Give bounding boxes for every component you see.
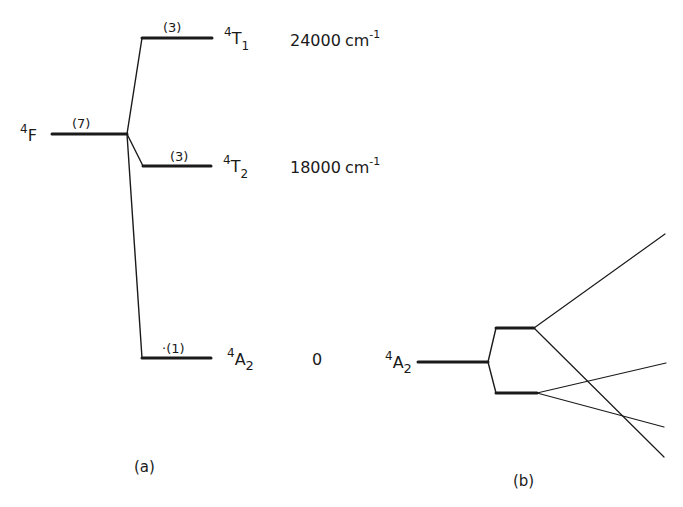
level-4T1-label: 4T1 xyxy=(224,25,249,53)
free-ion-label: 4F xyxy=(20,122,37,145)
branch-to-4T1 xyxy=(127,38,142,134)
level-4T2-energy: 18000cm-1 xyxy=(290,155,380,177)
b-branch-lower xyxy=(488,362,496,393)
b-zeeman-lower-falling xyxy=(537,393,664,427)
b-level-4A2-label: 4A2 xyxy=(385,349,412,376)
level-4A2-energy: 0 xyxy=(312,350,322,369)
free-ion-degeneracy: (7) xyxy=(72,116,90,131)
level-4A2-degeneracy: ·(1) xyxy=(162,341,185,356)
level-4T2-degeneracy: (3) xyxy=(170,149,188,164)
level-4T1-degeneracy: (3) xyxy=(163,20,181,35)
panel-b-caption: (b) xyxy=(513,472,534,490)
b-zeeman-upper-falling xyxy=(534,328,664,457)
level-4A2-label: 4A2 xyxy=(227,346,254,373)
panel-a-caption: (a) xyxy=(134,458,155,476)
b-zeeman-upper-rising xyxy=(534,234,665,328)
b-zeeman-lower-rising xyxy=(537,363,666,393)
crystal-field-splitting-diagram: 4F (7) (3) 4T1 24000cm-1 (3) 4T2 18000cm… xyxy=(0,0,683,507)
b-branch-upper xyxy=(488,328,496,362)
branch-to-4A2 xyxy=(127,134,142,358)
level-4T1-energy: 24000cm-1 xyxy=(290,28,380,50)
level-4T2-label: 4T2 xyxy=(223,153,248,181)
